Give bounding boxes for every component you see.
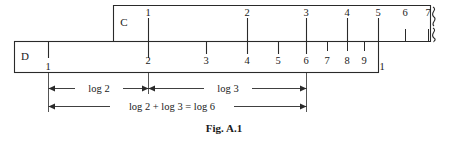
d-label-9: 9 [361, 55, 366, 66]
dimension-row-total: log 2 + log 3 = log 6 [49, 100, 307, 113]
c-label-7: 7 [425, 7, 430, 18]
total-arrowhead-left-icon [49, 104, 56, 110]
d-label-2: 2 [145, 55, 150, 66]
c-label-1: 1 [145, 7, 150, 18]
d-label-1: 1 [45, 61, 50, 72]
c-scale-group: C 1 2 3 4 5 6 7 [114, 6, 436, 43]
log2-arrowhead-left-icon [49, 86, 56, 92]
log2-dim-label: log 2 [88, 83, 109, 94]
c-scale-break-lower-icon [432, 28, 435, 42]
d-scale-group: D 3 4 5 6 7 8 9 2 1 1 [15, 42, 385, 73]
figure-caption: Fig. A.1 [206, 122, 242, 134]
d-label-7: 7 [324, 55, 329, 66]
c-scale-break-upper-icon [432, 7, 435, 26]
c-label-6: 6 [402, 7, 407, 18]
d-scale-label: D [21, 50, 29, 62]
log2-arrowhead-right-icon [142, 86, 149, 92]
d-label-5: 5 [275, 55, 280, 66]
d-label-6: 6 [303, 55, 308, 66]
d-label-3: 3 [203, 55, 208, 66]
c-scale-body [114, 6, 431, 42]
total-dim-label: log 2 + log 3 = log 6 [129, 101, 215, 112]
log3-arrowhead-left-icon [149, 86, 156, 92]
c-label-2: 2 [244, 7, 249, 18]
total-arrowhead-right-icon [300, 104, 307, 110]
c-label-4: 4 [344, 7, 350, 18]
c-scale-label: C [120, 16, 127, 28]
c-label-3: 3 [303, 7, 308, 18]
slide-rule-diagram: C 1 2 3 4 5 6 7 D [0, 0, 451, 143]
figure-container: C 1 2 3 4 5 6 7 D [0, 0, 451, 143]
log3-arrowhead-right-icon [300, 86, 307, 92]
d-label-8: 8 [344, 55, 349, 66]
log3-dim-label: log 3 [217, 83, 238, 94]
d-label-4: 4 [244, 55, 250, 66]
c-label-5: 5 [375, 7, 380, 18]
d-label-right-index: 1 [379, 61, 384, 72]
